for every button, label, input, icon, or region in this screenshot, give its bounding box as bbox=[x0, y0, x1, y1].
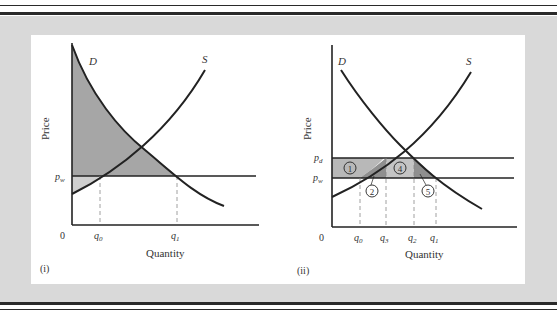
svg-text:4: 4 bbox=[398, 164, 403, 174]
pw-label: pw bbox=[312, 172, 323, 185]
supply-label: S bbox=[466, 55, 472, 67]
q3-label: q3 bbox=[380, 232, 389, 245]
y-axis-label: Price bbox=[39, 117, 51, 140]
q0-label: q0 bbox=[354, 232, 363, 245]
svg-text:1: 1 bbox=[348, 164, 353, 174]
q0-label: q0 bbox=[94, 230, 103, 243]
q1-label: q1 bbox=[430, 232, 439, 245]
supply-label: S bbox=[202, 53, 208, 65]
panel-label-i: (i) bbox=[40, 263, 49, 275]
pd-label: pd bbox=[313, 152, 323, 165]
origin-label: 0 bbox=[60, 230, 65, 241]
q1-label: q1 bbox=[171, 230, 180, 243]
area-2-marker: 2 bbox=[366, 176, 378, 197]
svg-text:2: 2 bbox=[370, 187, 375, 197]
x-axis-label: Quantity bbox=[405, 248, 444, 260]
q2-label: q2 bbox=[408, 232, 417, 245]
chart-panel-ii: 1 2 4 5 D S Price Quantity 0 pd pw q0 q3… bbox=[297, 45, 517, 277]
demand-label: D bbox=[88, 55, 97, 67]
y-axis-label: Price bbox=[301, 117, 313, 140]
x-axis-label: Quantity bbox=[146, 247, 185, 259]
demand-curve bbox=[341, 70, 482, 209]
chart-panel-i: D S Price Quantity 0 pw q0 q1 (i) bbox=[39, 43, 259, 275]
pw-label: pw bbox=[54, 171, 65, 184]
consumer-surplus-area bbox=[72, 45, 177, 176]
figure-svg: D S Price Quantity 0 pw q0 q1 (i) bbox=[0, 0, 557, 315]
svg-text:5: 5 bbox=[426, 187, 431, 197]
demand-label: D bbox=[337, 55, 346, 67]
origin-label: 0 bbox=[319, 232, 324, 243]
panel-label-ii: (ii) bbox=[297, 265, 309, 277]
